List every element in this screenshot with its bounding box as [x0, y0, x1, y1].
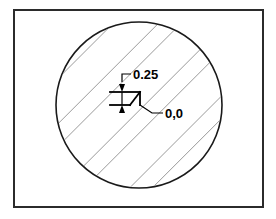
- drawing-canvas: 0.25 0,0: [0, 0, 276, 219]
- dimension-value-label: 0.25: [133, 67, 158, 82]
- workpiece-outline: [56, 22, 222, 188]
- origin-value-label: 0,0: [165, 106, 183, 121]
- technical-drawing-figure: 0.25 0,0: [0, 0, 276, 219]
